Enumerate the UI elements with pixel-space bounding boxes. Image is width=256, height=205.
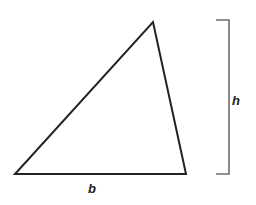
base-label: b bbox=[88, 182, 96, 195]
height-label: h bbox=[232, 94, 240, 107]
height-bracket bbox=[216, 20, 229, 174]
triangle-diagram bbox=[0, 0, 256, 205]
triangle-shape bbox=[15, 22, 186, 174]
